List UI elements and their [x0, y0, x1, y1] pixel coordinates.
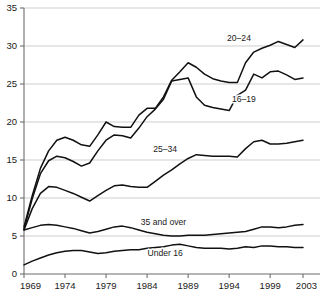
- y-tick-label: 0: [12, 268, 17, 279]
- y-tick-label: 15: [6, 154, 17, 165]
- y-tick-labels: 05101520253035: [6, 2, 17, 279]
- x-tick-label: 1994: [219, 280, 240, 291]
- series-label-under-16: Under 16: [147, 248, 183, 258]
- x-tick-label: 1969: [20, 280, 41, 291]
- y-axis: [20, 8, 24, 274]
- line-chart: 05101520253035 1969197419791984198919941…: [0, 0, 329, 296]
- x-tick-label: 1979: [95, 280, 116, 291]
- y-tick-label: 5: [12, 230, 17, 241]
- y-tick-label: 25: [6, 78, 17, 89]
- x-tick-label: 1989: [178, 280, 199, 291]
- x-tick-label: 2003: [296, 280, 317, 291]
- series-label-35-and-over: 35 and over: [141, 217, 187, 227]
- series-line: [24, 40, 303, 227]
- series-label-20-24: 20–24: [227, 33, 251, 43]
- x-tick-label: 1974: [54, 280, 75, 291]
- chart-canvas: 05101520253035 1969197419791984198919941…: [0, 0, 329, 296]
- y-tick-label: 35: [6, 2, 17, 13]
- y-tick-label: 30: [6, 40, 17, 51]
- x-tick-labels: 19691974197919841989199419992003: [20, 280, 317, 291]
- y-tick-label: 20: [6, 116, 17, 127]
- series-label-25-34: 25–34: [153, 144, 177, 154]
- x-tick-label: 1984: [137, 280, 158, 291]
- y-tick-label: 10: [6, 192, 17, 203]
- series-inline-labels: 20–2420–2416–1916–1925–3425–3435 and ove…: [141, 33, 256, 257]
- x-axis: [24, 274, 320, 278]
- x-tick-label: 1999: [260, 280, 281, 291]
- series-label-16-19: 16–19: [232, 94, 256, 104]
